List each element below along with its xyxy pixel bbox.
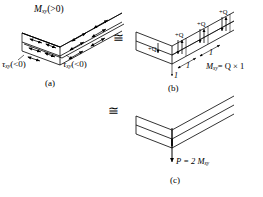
panel-c-caption: (c) xyxy=(170,176,180,185)
panel-a-plate xyxy=(22,13,124,65)
panel-a-moment-arrows-left xyxy=(28,39,56,61)
panel-a-shear-right-label: τxy(<0) xyxy=(63,60,87,70)
panel-b-dimension-label-2: 1 xyxy=(174,71,178,80)
panel-b-force-arrows xyxy=(158,17,226,54)
panel-b-plate xyxy=(136,12,234,64)
shear-left-condition: (<0) xyxy=(10,59,26,69)
panel-a-shear-left-label: τxy(<0) xyxy=(2,60,26,70)
corner-force-symbol: M xyxy=(197,156,204,166)
panel-b-force-label-1: +Q xyxy=(175,31,183,38)
corner-force-prefix: P = 2 xyxy=(176,156,197,166)
panel-b-caption: (b) xyxy=(168,84,179,93)
moment-condition: (>0) xyxy=(47,4,63,14)
figure-canvas xyxy=(0,0,263,197)
panel-a-moment-label: Mxy(>0) xyxy=(34,5,64,15)
panel-a-moment-arrows-right xyxy=(69,20,108,59)
equation-rhs: = Q × 1 xyxy=(218,61,244,71)
panel-b-equation: Mxy= Q × 1 xyxy=(206,62,244,71)
panel-c-plate xyxy=(136,96,234,148)
shear-right-condition: (<0) xyxy=(71,59,87,69)
panel-b-force-label-2: +Q xyxy=(197,20,205,27)
panel-b-dimension-label-0: 1 xyxy=(186,61,190,70)
panel-b-force-label-3: +Q xyxy=(219,8,227,15)
panel-b-dimension-label-1: 1 xyxy=(209,48,213,57)
panel-c-force-label: P = 2 Mxy xyxy=(176,157,209,166)
panel-b-force-label-0: +Q xyxy=(148,45,156,52)
corner-force-subscript: xy xyxy=(205,160,210,166)
congruent-symbol-a-b: ≅ xyxy=(113,31,124,44)
panel-a-caption: (a) xyxy=(45,79,55,88)
moment-symbol: M xyxy=(34,4,42,14)
congruent-symbol-b-c: ≅ xyxy=(108,104,119,117)
